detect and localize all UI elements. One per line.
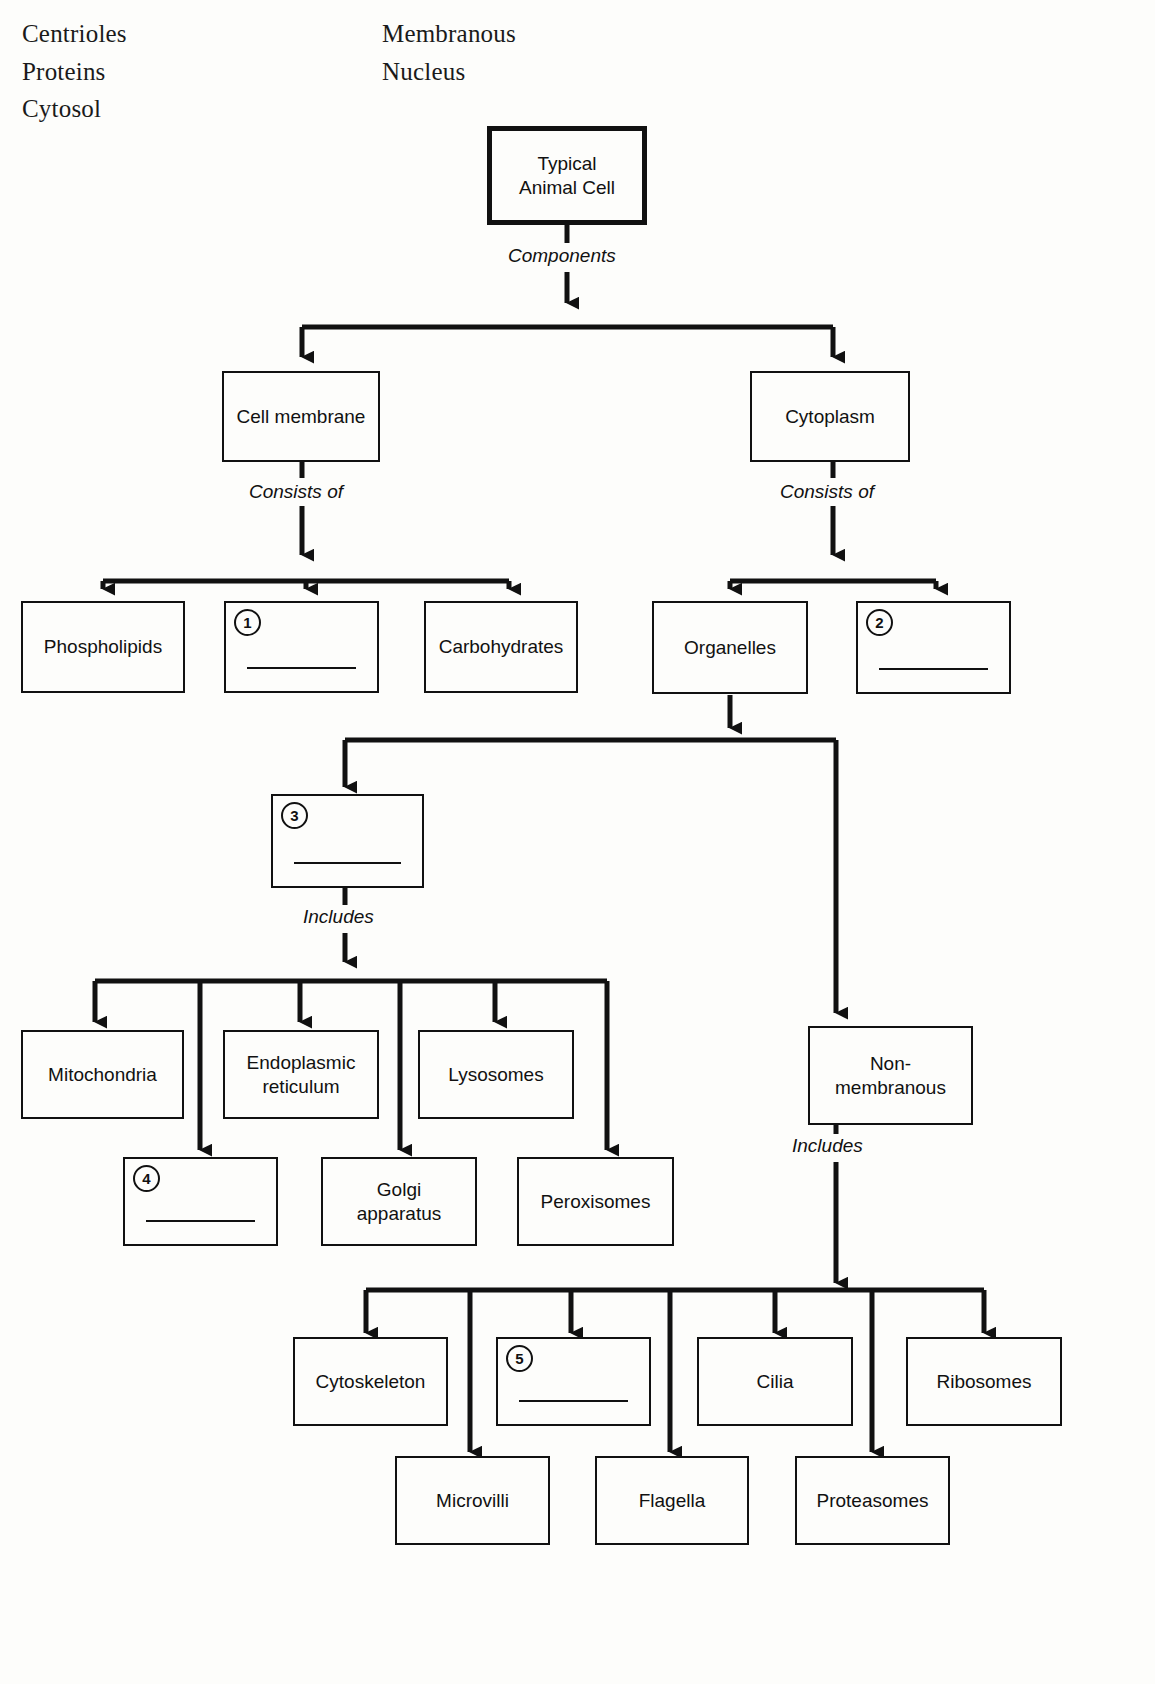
diagram-canvas: Centrioles Proteins Cytosol Membranous N… — [0, 0, 1155, 1684]
blank-number-circle-3: 3 — [281, 802, 308, 829]
node-mitochondria[interactable]: Mitochondria — [21, 1030, 184, 1119]
node-endoplasmic-reticulum[interactable]: Endoplasmic reticulum — [223, 1030, 379, 1119]
node-flagella[interactable]: Flagella — [595, 1456, 749, 1545]
node-label: Proteasomes — [817, 1489, 929, 1512]
node-label-line1: Typical — [537, 153, 596, 174]
blank-number-circle-1: 1 — [234, 609, 261, 636]
node-label: Carbohydrates — [439, 635, 564, 658]
word-bank-item-proteins: Proteins — [22, 58, 106, 86]
node-label: Cytoskeleton — [316, 1370, 426, 1393]
node-label: Peroxisomes — [541, 1190, 651, 1213]
node-carbohydrates[interactable]: Carbohydrates — [424, 601, 578, 693]
node-label-line1: Golgi — [377, 1179, 421, 1200]
node-cell-membrane[interactable]: Cell membrane — [222, 371, 380, 462]
node-label-line1: Non- — [870, 1053, 911, 1074]
node-label: Mitochondria — [48, 1063, 157, 1086]
node-label: Cell membrane — [237, 405, 366, 428]
blank-number-circle-2: 2 — [866, 609, 893, 636]
node-label: Typical Animal Cell — [519, 152, 615, 198]
word-bank-item-membranous: Membranous — [382, 20, 516, 48]
edge-label-consists-of-right: Consists of — [780, 481, 874, 503]
blank-answer-line-1[interactable] — [247, 667, 356, 669]
node-label-line2: membranous — [835, 1077, 946, 1098]
node-label-line2: reticulum — [262, 1076, 339, 1097]
node-cytoplasm[interactable]: Cytoplasm — [750, 371, 910, 462]
node-cytoskeleton[interactable]: Cytoskeleton — [293, 1337, 448, 1426]
word-bank-item-nucleus: Nucleus — [382, 58, 465, 86]
node-label: Phospholipids — [44, 635, 162, 658]
blank-answer-line-2[interactable] — [879, 668, 988, 670]
node-label: Flagella — [639, 1489, 706, 1512]
node-label-line2: apparatus — [357, 1203, 442, 1224]
node-organelles[interactable]: Organelles — [652, 601, 808, 694]
node-golgi-apparatus[interactable]: Golgi apparatus — [321, 1157, 477, 1246]
node-label: Endoplasmic reticulum — [247, 1051, 356, 1097]
blank-number-circle-5: 5 — [506, 1345, 533, 1372]
node-label: Lysosomes — [448, 1063, 543, 1086]
node-phospholipids[interactable]: Phospholipids — [21, 601, 185, 693]
node-typical-animal-cell[interactable]: Typical Animal Cell — [487, 126, 647, 225]
node-label: Cilia — [757, 1370, 794, 1393]
node-ribosomes[interactable]: Ribosomes — [906, 1337, 1062, 1426]
edge-label-includes-nonmembranous: Includes — [792, 1135, 863, 1157]
edge-label-components: Components — [508, 245, 616, 267]
word-bank-item-cytosol: Cytosol — [22, 95, 101, 123]
blank-answer-line-4[interactable] — [146, 1220, 255, 1222]
node-label: Cytoplasm — [785, 405, 875, 428]
edge-label-includes-membranous: Includes — [303, 906, 374, 928]
node-proteasomes[interactable]: Proteasomes — [795, 1456, 950, 1545]
edge-label-consists-of-left: Consists of — [249, 481, 343, 503]
node-cilia[interactable]: Cilia — [697, 1337, 853, 1426]
blank-node-4[interactable]: 4 — [123, 1157, 278, 1246]
blank-node-3[interactable]: 3 — [271, 794, 424, 888]
node-label: Organelles — [684, 636, 776, 659]
blank-answer-line-3[interactable] — [294, 862, 401, 864]
node-lysosomes[interactable]: Lysosomes — [418, 1030, 574, 1119]
node-peroxisomes[interactable]: Peroxisomes — [517, 1157, 674, 1246]
node-label-line1: Endoplasmic — [247, 1052, 356, 1073]
node-label: Golgi apparatus — [357, 1178, 442, 1224]
node-label: Non- membranous — [835, 1052, 946, 1098]
node-microvilli[interactable]: Microvilli — [395, 1456, 550, 1545]
node-non-membranous[interactable]: Non- membranous — [808, 1026, 973, 1125]
blank-node-2[interactable]: 2 — [856, 601, 1011, 694]
blank-node-1[interactable]: 1 — [224, 601, 379, 693]
node-label: Ribosomes — [936, 1370, 1031, 1393]
word-bank-item-centrioles: Centrioles — [22, 20, 127, 48]
blank-number-circle-4: 4 — [133, 1165, 160, 1192]
blank-answer-line-5[interactable] — [519, 1400, 628, 1402]
node-label-line2: Animal Cell — [519, 177, 615, 198]
node-label: Microvilli — [436, 1489, 509, 1512]
blank-node-5[interactable]: 5 — [496, 1337, 651, 1426]
